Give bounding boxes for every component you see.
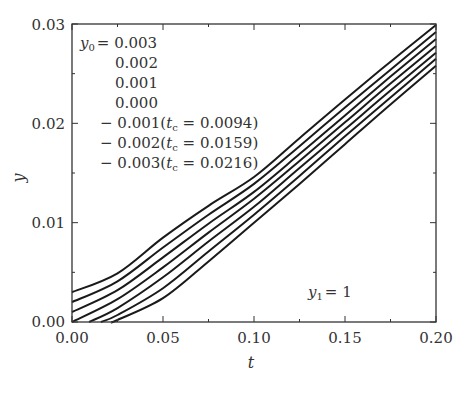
- legend-row-5: − 0.002(tc = 0.0159): [100, 134, 258, 153]
- legend-row-2: 0.001: [115, 74, 158, 92]
- y-tick-2: 0.02: [32, 115, 65, 133]
- line-chart: 0.00 0.01 0.02 0.03 0.00 0.05 0.10 0.15 …: [0, 0, 471, 393]
- x-tick-4: 0.20: [419, 329, 452, 347]
- legend-row-6: − 0.003(tc = 0.0216): [100, 154, 258, 173]
- x-tick-3: 0.15: [328, 329, 361, 347]
- x-tick-0: 0.00: [55, 329, 88, 347]
- x-tick-1: 0.05: [146, 329, 179, 347]
- series-line-6: [111, 66, 436, 323]
- annotation-y1: y1= 1: [307, 283, 352, 302]
- x-axis-label: t: [248, 353, 255, 372]
- legend: y0= 0.003 0.002 0.001 0.000 − 0.001(tc =…: [79, 34, 258, 173]
- legend-row-1: 0.002: [115, 54, 158, 72]
- legend-row-3: 0.000: [115, 94, 158, 112]
- x-tick-2: 0.10: [237, 329, 270, 347]
- y-tick-1: 0.01: [32, 214, 65, 232]
- y-axis-label: y: [9, 173, 28, 184]
- legend-row-4: − 0.001(tc = 0.0094): [100, 114, 258, 133]
- y-tick-3: 0.03: [32, 16, 65, 34]
- legend-row-0: y0= 0.003: [79, 34, 157, 53]
